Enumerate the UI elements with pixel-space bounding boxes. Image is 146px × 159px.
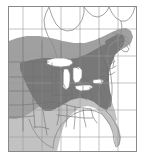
map-figure — [0, 0, 146, 159]
map-frame — [8, 6, 137, 152]
lake-superior-icon — [47, 58, 73, 67]
lake-michigan-icon — [63, 69, 70, 90]
map-canvas — [9, 7, 136, 151]
